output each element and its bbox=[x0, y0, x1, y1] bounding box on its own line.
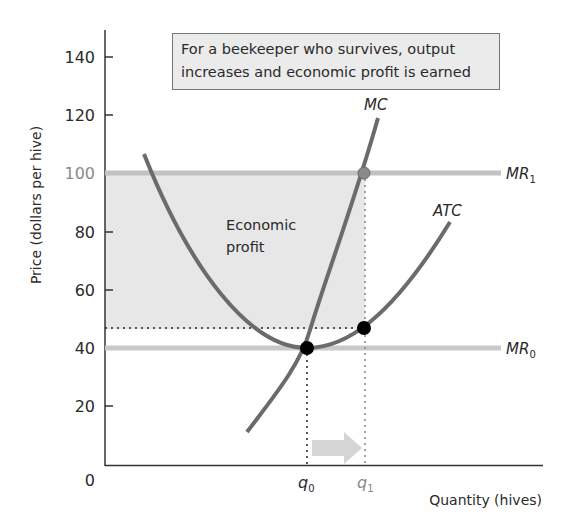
point-mc-mr1 bbox=[358, 167, 370, 179]
y-tick-60: 60 bbox=[75, 281, 95, 300]
output-increase-arrow bbox=[312, 432, 362, 464]
title-line-2: increases and economic profit is earned bbox=[181, 61, 491, 84]
y-tick-40: 40 bbox=[75, 339, 95, 358]
y-tick-120: 120 bbox=[64, 106, 95, 125]
mr0-label: MR0 bbox=[506, 340, 536, 360]
point-atc-q1 bbox=[357, 321, 371, 335]
y-tick-20: 20 bbox=[75, 397, 95, 416]
y-tick-80: 80 bbox=[75, 223, 95, 242]
y-tick-0: 0 bbox=[85, 471, 95, 490]
y-ticks bbox=[105, 57, 113, 406]
mc-label: MC bbox=[364, 96, 388, 114]
y-tick-140: 140 bbox=[64, 48, 95, 67]
x-tick-q1: q1 bbox=[357, 473, 374, 494]
mr1-label: MR1 bbox=[506, 165, 536, 185]
economic-profit-label-line1: Economic bbox=[226, 217, 296, 233]
economic-profit-label-line2: profit bbox=[226, 239, 265, 255]
y-tick-100: 100 bbox=[64, 164, 95, 183]
atc-label: ATC bbox=[432, 202, 462, 220]
x-tick-q0: q0 bbox=[298, 473, 315, 494]
x-axis-title: Quantity (hives) bbox=[429, 492, 542, 508]
point-min-atc-q0 bbox=[300, 341, 314, 355]
title-line-1: For a beekeeper who survives, output bbox=[181, 38, 491, 61]
chart-title-box: For a beekeeper who survives, output inc… bbox=[172, 33, 500, 90]
y-axis-title: Price (dollars per hive) bbox=[28, 126, 44, 284]
